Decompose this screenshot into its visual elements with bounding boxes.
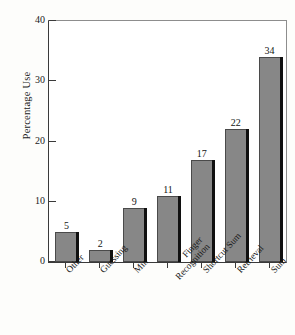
x-label-slot: Min bbox=[116, 266, 150, 335]
bar-slot: 17 bbox=[184, 21, 218, 262]
bar-min[interactable]: 9 bbox=[123, 208, 144, 262]
bar-slot: 5 bbox=[49, 21, 83, 262]
y-tick-label: 30 bbox=[35, 74, 45, 85]
x-label-slot: Retrieval bbox=[219, 266, 253, 335]
bar-value-label: 5 bbox=[64, 220, 69, 231]
bar-series: 52911172234 bbox=[49, 21, 286, 262]
bar-value-label: 9 bbox=[132, 196, 137, 207]
bar-value-label: 17 bbox=[197, 148, 207, 159]
bar-value-label: 34 bbox=[265, 45, 275, 56]
bar-slot: 9 bbox=[117, 21, 151, 262]
x-label-slot: FingerRecognition bbox=[150, 266, 184, 335]
plot-area: 010203040 52911172234 bbox=[48, 20, 287, 263]
y-tick-label: 10 bbox=[35, 195, 45, 206]
x-label-slot: Shortcut Sum bbox=[185, 266, 219, 335]
y-tick-label: 40 bbox=[35, 14, 45, 25]
bar-slot: 22 bbox=[218, 21, 252, 262]
x-label-slot: Guessing bbox=[82, 266, 116, 335]
bar-slot: 2 bbox=[83, 21, 117, 262]
bar-finger-recognition[interactable]: 11 bbox=[157, 196, 178, 262]
bar-chart-figure: Percentage Use 010203040 52911172234 Oth… bbox=[0, 0, 295, 335]
y-tick-label: 20 bbox=[35, 135, 45, 146]
bar-sum[interactable]: 34 bbox=[259, 57, 280, 262]
x-label-slot: Sum bbox=[253, 266, 287, 335]
bar-value-label: 22 bbox=[231, 117, 241, 128]
x-label-slot: Other bbox=[48, 266, 82, 335]
y-tick-label: 0 bbox=[40, 255, 45, 266]
bar-slot: 34 bbox=[252, 21, 286, 262]
y-axis-title: Percentage Use bbox=[21, 36, 32, 176]
bar-slot: 11 bbox=[151, 21, 185, 262]
x-axis-labels: OtherGuessingMinFingerRecognitionShortcu… bbox=[48, 266, 287, 335]
bar-value-label: 11 bbox=[163, 184, 173, 195]
bar-value-label: 2 bbox=[98, 238, 103, 249]
